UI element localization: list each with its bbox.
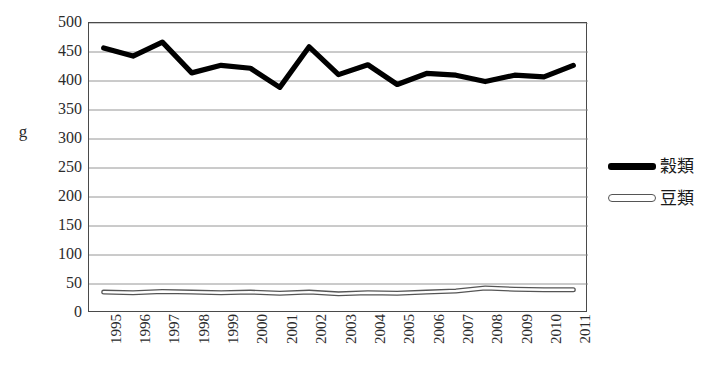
y-tick-label: 450 [36,43,82,59]
x-tick-label: 2007 [461,314,476,374]
chart-legend: 穀類 豆類 [608,150,712,214]
line-chart: g 500450400350300250200150100500 1995199… [0,0,715,385]
x-tick-label: 2004 [373,314,388,374]
y-tick-label: 50 [36,275,82,291]
legend-label-1: 豆類 [660,189,694,207]
x-tick-label: 2008 [490,314,505,374]
x-tick-label: 1998 [197,314,212,374]
hollow-line-swatch-icon [608,194,656,202]
x-tick-label: 2009 [520,314,535,374]
y-tick-label: 300 [36,130,82,146]
legend-label-0: 穀類 [660,157,694,175]
y-tick-label: 100 [36,246,82,262]
x-tick-label: 2006 [432,314,447,374]
x-tick-label: 2000 [255,314,270,374]
x-tick-label: 2001 [285,314,300,374]
legend-item-0[interactable]: 穀類 [608,150,712,182]
solid-line-swatch-icon [608,163,656,170]
y-tick-label: 400 [36,72,82,88]
y-axis-tick-labels: 500450400350300250200150100500 [36,0,82,385]
x-tick-label: 2010 [549,314,564,374]
x-tick-label: 2003 [344,314,359,374]
y-tick-label: 200 [36,188,82,204]
x-tick-label: 2002 [314,314,329,374]
x-tick-label: 1996 [138,314,153,374]
x-tick-label: 1997 [167,314,182,374]
y-tick-label: 350 [36,101,82,117]
x-tick-label: 2011 [578,314,593,374]
legend-item-1[interactable]: 豆類 [608,182,712,214]
x-axis-tick-labels: 1995199619971998199920002001200220032004… [88,314,587,384]
x-tick-label: 1999 [226,314,241,374]
y-tick-label: 150 [36,217,82,233]
plot-canvas [89,23,588,313]
y-tick-label: 500 [36,14,82,30]
y-tick-label: 250 [36,159,82,175]
y-axis-title: g [8,122,38,142]
plot-area [88,22,587,312]
y-tick-label: 0 [36,304,82,320]
x-tick-label: 1995 [109,314,124,374]
x-tick-label: 2005 [402,314,417,374]
gridlines [89,23,588,284]
